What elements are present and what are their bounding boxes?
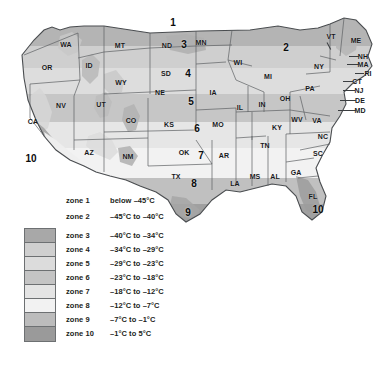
legend-zone-label-10: zone 10	[66, 329, 110, 338]
leader-line-de	[340, 100, 356, 101]
legend-zone-label-2: zone 2	[66, 212, 110, 221]
legend-swatch-zone-4	[25, 243, 55, 257]
legend-range-10: –1°C to 5°C	[110, 329, 151, 338]
hardiness-zone-map-figure: 1 2 3 4 5 6 7 8 9 10 10 WA OR ID MT ND S…	[0, 0, 387, 375]
legend-zone-label-7: zone 7	[66, 287, 110, 296]
legend-zone-label-5: zone 5	[66, 259, 110, 268]
leader-line-ri	[355, 73, 364, 74]
legend-swatch-zone-5	[25, 257, 55, 271]
legend-range-3: –40°C to –34°C	[110, 231, 164, 240]
legend-swatch-zone-10	[25, 327, 55, 341]
legend-range-2: –45°C to –40°C	[110, 212, 164, 221]
legend-swatch-zone-7	[25, 285, 55, 299]
legend-range-4: –34°C to –29°C	[110, 245, 164, 254]
legend-range-7: –18°C to –12°C	[110, 287, 164, 296]
us-map-graphic	[0, 0, 387, 375]
legend-swatch-zone-6	[25, 271, 55, 285]
leader-line-ct	[343, 81, 353, 82]
leader-line-nh	[349, 56, 359, 57]
legend-swatch-zone-8	[25, 299, 55, 313]
legend-range-5: –29°C to –23°C	[110, 259, 164, 268]
legend-zone-label-1: zone 1	[66, 196, 110, 205]
legend-zone-label-6: zone 6	[66, 273, 110, 282]
zone-bands	[0, 0, 387, 244]
legend-range-1: below –45°C	[110, 196, 155, 205]
legend-range-9: –7°C to –1°C	[110, 315, 155, 324]
leader-line-ma	[347, 64, 359, 65]
legend-swatch-column	[24, 228, 56, 342]
leader-line-nj	[343, 90, 355, 91]
leader-line-md	[338, 110, 356, 111]
legend-swatch-zone-9	[25, 313, 55, 327]
legend-zone-label-4: zone 4	[66, 245, 110, 254]
legend-zone-label-8: zone 8	[66, 301, 110, 310]
legend-range-8: –12°C to –7°C	[110, 301, 160, 310]
legend-swatch-zone-3	[25, 229, 55, 243]
legend-zone-label-9: zone 9	[66, 315, 110, 324]
legend-zone-label-3: zone 3	[66, 231, 110, 240]
legend-range-6: –23°C to –18°C	[110, 273, 164, 282]
